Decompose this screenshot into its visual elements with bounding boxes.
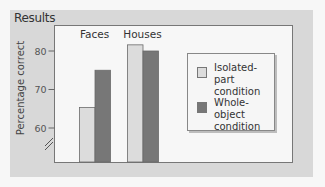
y-axis: 607080 xyxy=(34,46,54,134)
legend-label-whole-object: Whole-object condition xyxy=(214,97,274,133)
bar-houses-isolated-part xyxy=(128,45,144,162)
legend-swatch-isolated-part xyxy=(197,67,207,78)
legend: Isolated-part condition Whole-object con… xyxy=(187,53,275,131)
y-tick-label: 60 xyxy=(34,123,46,134)
bar-chart: 607080 FacesHouses Percentage correct xyxy=(0,0,325,187)
legend-item-isolated-part: Isolated-part condition xyxy=(197,62,274,98)
legend-label-line1: Whole-object xyxy=(214,97,274,121)
legend-label-line1: Isolated-part xyxy=(214,62,274,86)
legend-item-whole-object: Whole-object condition xyxy=(197,97,274,133)
y-axis-title: Percentage correct xyxy=(15,41,26,136)
axis-break-icon xyxy=(45,138,53,150)
bar-houses-whole-object xyxy=(143,51,159,162)
category-label-houses: Houses xyxy=(123,28,161,40)
y-tick-label: 80 xyxy=(34,46,46,57)
category-label-faces: Faces xyxy=(80,28,109,40)
legend-label-line2: condition xyxy=(214,121,274,133)
bar-faces-whole-object xyxy=(95,70,111,162)
bar-faces-isolated-part xyxy=(80,108,96,162)
y-tick-label: 70 xyxy=(34,84,46,95)
legend-label-isolated-part: Isolated-part condition xyxy=(214,62,274,98)
legend-swatch-whole-object xyxy=(197,102,207,113)
